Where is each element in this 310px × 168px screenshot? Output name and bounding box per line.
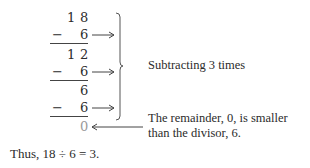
- right-arrow-icon: [92, 32, 114, 38]
- brace-label: Subtracting 3 times: [148, 58, 245, 73]
- left-arrow-icon: [92, 124, 143, 130]
- right-brace-icon: [116, 13, 123, 120]
- remainder-note-line2: than the divisor, 6.: [148, 126, 241, 141]
- right-arrow-icon: [92, 69, 114, 75]
- right-arrow-icon: [92, 105, 114, 111]
- arrows-and-brace: [0, 0, 310, 168]
- remainder-note-line1: The remainder, 0, is smaller: [148, 111, 288, 126]
- conclusion-statement: Thus, 18 ÷ 6 = 3.: [10, 146, 99, 161]
